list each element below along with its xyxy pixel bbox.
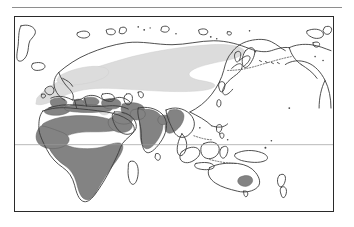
coast-north-america-west bbox=[285, 61, 331, 108]
speck-island-14 bbox=[175, 33, 177, 35]
coast-iceland bbox=[31, 62, 44, 70]
coast-sulawesi bbox=[220, 146, 228, 158]
coast-canada-arctic-islands bbox=[307, 26, 332, 47]
coast-novaya-zemlya bbox=[119, 27, 126, 34]
map-canvas bbox=[15, 17, 333, 211]
coast-aral-sea bbox=[138, 92, 143, 98]
speck-island-2 bbox=[216, 38, 218, 40]
speck-island-1 bbox=[210, 36, 212, 38]
dotted-boundary-pacific bbox=[228, 57, 292, 71]
coast-new-guinea bbox=[234, 150, 267, 162]
coast-new-siberian-islands bbox=[199, 29, 208, 35]
top-horizontal-rule bbox=[12, 7, 342, 8]
coast-franz-josef-land bbox=[106, 29, 115, 35]
speck-island-12 bbox=[143, 29, 145, 31]
coast-greenland bbox=[17, 25, 36, 61]
coast-wrangel-island bbox=[227, 32, 231, 35]
speck-island-4 bbox=[264, 147, 266, 149]
coast-severnaya-zemlya bbox=[161, 26, 169, 32]
speck-island-5 bbox=[271, 140, 273, 142]
speck-island-3 bbox=[255, 51, 257, 53]
coast-taiwan bbox=[217, 100, 221, 107]
map-frame bbox=[14, 16, 334, 212]
speck-island-11 bbox=[137, 26, 139, 28]
speck-island-9 bbox=[314, 56, 316, 58]
range-dark-group bbox=[36, 97, 253, 200]
figure-container bbox=[0, 0, 354, 227]
range-dark-southeast-australia bbox=[238, 176, 253, 187]
speck-island-15 bbox=[249, 30, 251, 32]
coast-new-zealand bbox=[277, 174, 286, 197]
coast-madagascar bbox=[128, 161, 138, 184]
dotted-boundary-indonesia bbox=[194, 136, 212, 140]
coast-java bbox=[195, 162, 215, 169]
speck-island-13 bbox=[149, 27, 150, 28]
coast-alaska bbox=[289, 44, 331, 78]
speck-island-6 bbox=[288, 107, 290, 109]
coast-sri-lanka bbox=[155, 153, 160, 160]
speck-island-7 bbox=[199, 127, 201, 129]
coast-svalbard bbox=[77, 31, 90, 38]
speck-island-8 bbox=[227, 139, 229, 141]
speck-island-10 bbox=[322, 60, 324, 62]
